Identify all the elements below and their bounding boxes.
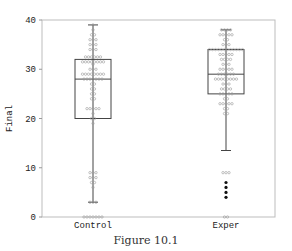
data-point [229,78,231,80]
data-point [98,107,100,109]
data-point [219,34,221,36]
box-group-control [75,24,111,218]
data-point [220,58,222,60]
box-plot-chart: 010203040 Final ControlExper [0,0,292,251]
data-point [223,107,225,109]
data-point [99,61,101,63]
data-point [226,58,228,60]
data-point [84,56,86,58]
data-point [223,58,225,60]
data-point [223,112,225,114]
data-point [228,68,230,70]
data-point [93,73,95,75]
data-point [93,61,95,63]
data-point [81,73,83,75]
data-point [93,98,95,100]
x-tick-label: Control [74,221,112,231]
data-point [90,73,92,75]
data-point [219,68,221,70]
data-point [93,88,95,90]
data-point [222,103,224,105]
data-point [226,88,228,90]
data-point [231,103,233,105]
data-point [226,107,228,109]
data-point [96,61,98,63]
data-point [102,61,104,63]
data-point [99,56,101,58]
data-point [229,58,231,60]
data-point [95,68,97,70]
data-point [102,73,104,75]
data-point [89,171,91,173]
data-point [87,73,89,75]
data-point [222,83,224,85]
data-point [222,63,224,65]
data-point [222,171,224,173]
y-axis-label: Final [5,105,15,132]
y-tick-label: 20 [25,115,36,125]
y-axis: 010203040 [25,16,42,223]
data-point [93,56,95,58]
boxes-layer [75,24,244,218]
data-point [222,43,224,45]
data-point [93,93,95,95]
data-point [84,73,86,75]
x-axis: ControlExper [74,221,239,231]
data-point [226,98,228,100]
outlier-point [224,191,227,194]
data-point [222,34,224,36]
data-point [231,34,233,36]
data-point [231,68,233,70]
data-point [228,34,230,36]
data-point [222,53,224,55]
y-tick-label: 40 [25,16,36,26]
data-point [235,78,237,80]
data-point [89,176,91,178]
outlier-point [224,181,227,184]
data-point [90,88,92,90]
data-point [93,83,95,85]
data-point [86,107,88,109]
data-point [99,73,101,75]
data-point [89,43,91,45]
outlier-point [224,196,227,199]
outlier-point [224,186,227,189]
data-point [95,48,97,50]
data-point [226,78,228,80]
data-point [93,181,95,183]
data-point [225,171,227,173]
data-point [90,98,92,100]
data-point [90,34,92,36]
y-tick-label: 30 [25,65,36,75]
data-point [228,63,230,65]
data-point [222,68,224,70]
data-point [96,56,98,58]
data-point [95,171,97,173]
data-point [229,88,231,90]
data-point [228,43,230,45]
data-point [220,88,222,90]
y-tick-label: 0 [31,213,36,223]
data-point [90,181,92,183]
data-point [87,61,89,63]
data-point [87,56,89,58]
data-point [231,53,233,55]
data-point [223,98,225,100]
data-point [228,171,230,173]
data-point [81,61,83,63]
data-point [228,53,230,55]
data-point [93,34,95,36]
box-group-exper [208,29,244,219]
data-point [226,39,228,41]
data-point [220,78,222,80]
y-tick-label: 10 [25,164,36,174]
data-point [214,78,216,80]
data-point [89,107,91,109]
data-point [96,73,98,75]
data-point [217,78,219,80]
data-point [95,176,97,178]
data-point [89,68,91,70]
data-point [226,112,228,114]
data-point [89,39,91,41]
data-point [223,39,225,41]
